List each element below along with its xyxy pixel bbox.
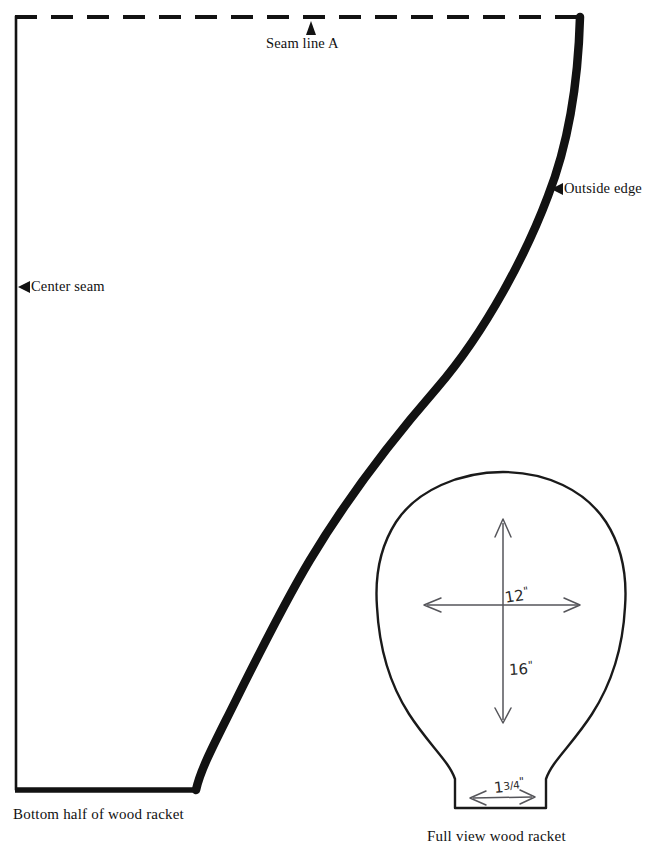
- caption-bottom-half-of-wood-racket: Bottom half of wood racket: [13, 807, 184, 822]
- callout-label-seam-line-a: Seam line A: [266, 36, 339, 51]
- dimension-handle-unit: ": [519, 776, 525, 787]
- dimension-handle-fraction: 3/4: [503, 779, 520, 791]
- caption-full-view-wood-racket: Full view wood racket: [427, 829, 566, 844]
- diagram-canvas: [0, 0, 664, 851]
- callout-label-center-seam: Center seam: [31, 279, 105, 294]
- pattern-diagram-page: Seam line A Outside edge Center seam Bot…: [0, 0, 664, 851]
- dimension-label-height: 16": [509, 660, 534, 678]
- callout-label-outside-edge: Outside edge: [564, 181, 642, 196]
- seam-line-a-arrow: [306, 21, 316, 35]
- dimension-label-handle: 13/4": [493, 776, 525, 796]
- dimension-height-value: 16: [509, 660, 529, 679]
- handle-dimension-line: [473, 797, 532, 798]
- dimension-height-unit: ": [528, 660, 533, 671]
- center-seam-arrow: [18, 281, 30, 293]
